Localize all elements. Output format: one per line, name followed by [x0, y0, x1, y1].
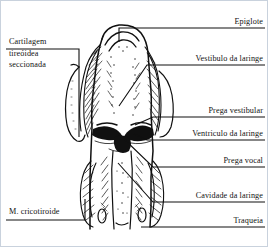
label-epiglote: Epiglote: [169, 17, 263, 28]
vestibular-fold: [97, 123, 151, 126]
leader-vestibulo-da-laringe: [119, 65, 265, 106]
cavity-midline-stipple: [121, 162, 123, 213]
label-cartilagem-tireoidea-seccionada: Cartilagem tireóidea seccionada: [9, 36, 46, 71]
cartilage-flap-stipple: [71, 81, 76, 129]
cricothyroid-muscle-left: [80, 161, 96, 227]
label-m-cricotiroide: M. cricotiroide: [9, 207, 60, 218]
leader-epiglote: [119, 28, 265, 42]
label-traqueia: Traqueia: [159, 216, 263, 227]
label-cavidade-da-laringe: Cavidade da laringe: [109, 191, 263, 202]
label-prega-vocal: Prega vocal: [129, 156, 263, 167]
label-vestibulo-da-laringe: Vestibulo da laringe: [109, 54, 263, 65]
vestibular-shading: [107, 61, 140, 109]
label-prega-vestibular: Prega vestibular: [119, 106, 263, 117]
sectioned-cartilage-flap: [66, 64, 86, 141]
trachea-hatching: [101, 203, 141, 211]
label-ventriculo-da-laringe: Ventriculo da laringe: [101, 129, 263, 140]
larynx-figure: Cartilagem tireóidea seccionada M. crico…: [0, 0, 268, 247]
leader-prega-vestibular: [135, 117, 265, 125]
epiglottis: [105, 32, 139, 51]
